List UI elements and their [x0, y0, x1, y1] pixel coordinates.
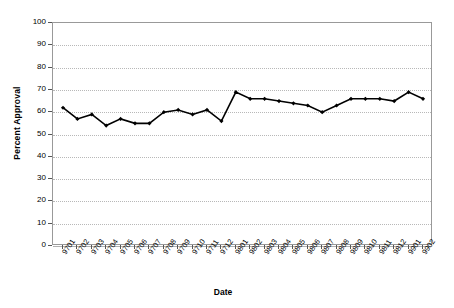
y-tick-label: 50 [20, 130, 46, 138]
data-point-marker [263, 97, 267, 101]
y-tick-mark [48, 89, 52, 90]
data-point-marker [363, 97, 367, 101]
y-tick-mark [48, 156, 52, 157]
y-tick-mark [48, 223, 52, 224]
y-tick-mark [48, 245, 52, 246]
y-tick-mark [48, 67, 52, 68]
y-tick-label: 20 [20, 196, 46, 204]
y-tick-label: 70 [20, 85, 46, 93]
y-tick-label: 10 [20, 219, 46, 227]
data-point-marker [191, 112, 195, 116]
data-point-marker [291, 101, 295, 105]
y-tick-label: 100 [20, 18, 46, 26]
y-tick-mark [48, 44, 52, 45]
y-tick-label: 60 [20, 107, 46, 115]
data-series-line [53, 23, 433, 246]
y-tick-mark [48, 111, 52, 112]
y-tick-mark [48, 134, 52, 135]
y-tick-label: 40 [20, 152, 46, 160]
y-axis-title: Percent Approval [8, 0, 26, 245]
series-polyline [63, 92, 423, 125]
y-tick-label: 90 [20, 40, 46, 48]
approval-rating-line-chart: Percent Approval 1009080706050403020100 … [0, 0, 454, 308]
plot-area [52, 22, 432, 245]
y-tick-label: 0 [20, 241, 46, 249]
y-tick-label: 30 [20, 174, 46, 182]
y-tick-mark [48, 22, 52, 23]
x-axis-title: Date [0, 287, 454, 297]
data-point-marker [133, 121, 137, 125]
y-tick-mark [48, 200, 52, 201]
y-tick-mark [48, 178, 52, 179]
data-point-marker [378, 97, 382, 101]
y-tick-label: 80 [20, 63, 46, 71]
data-point-marker [176, 108, 180, 112]
data-point-marker [277, 99, 281, 103]
